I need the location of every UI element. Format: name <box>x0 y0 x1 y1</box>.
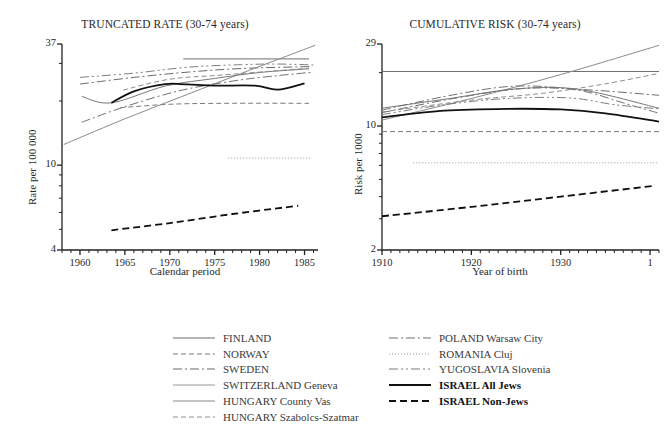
x-tick-label: 1910 <box>362 257 402 268</box>
chart-panel-cumulative-risk: CUMULATIVE RISK (30-74 years) Risk per 1… <box>330 0 660 300</box>
legend-item-label: HUNGARY County Vas <box>223 395 331 407</box>
x-tick-label: 1930 <box>541 257 581 268</box>
x-axis-label: Year of birth <box>370 265 630 277</box>
legend-column-left: FINLANDNORWAYSWEDENSWITZERLAND GenevaHUN… <box>172 330 359 425</box>
series-line <box>111 206 298 231</box>
legend-line-swatch <box>172 411 216 423</box>
legend-item-label: ROMANIA Cluj <box>439 348 513 360</box>
y-axis-label: Risk per 1000 <box>352 133 364 195</box>
legend-item[interactable]: SWITZERLAND Geneva <box>172 377 359 393</box>
panel-title: CUMULATIVE RISK (30-74 years) <box>330 18 660 30</box>
series-line <box>64 45 316 144</box>
legend-line-swatch <box>388 379 432 391</box>
legend-item-label: ISRAEL All Jews <box>439 379 521 391</box>
legend-line-swatch <box>388 348 432 360</box>
legend-item-label: NORWAY <box>223 348 270 360</box>
x-tick-label: 1965 <box>105 257 145 268</box>
y-tick-label: 37 <box>26 37 56 48</box>
x-tick-label: 1980 <box>240 257 280 268</box>
y-tick-label: 10 <box>346 119 376 130</box>
x-tick-label: 1975 <box>195 257 235 268</box>
legend-line-swatch <box>172 348 216 360</box>
legend-item[interactable]: HUNGARY Szabolcs-Szatmar <box>172 409 359 425</box>
legend-item[interactable]: NORWAY <box>172 346 359 362</box>
legend-line-swatch <box>388 363 432 375</box>
plot-area <box>330 0 660 300</box>
series-line <box>382 73 659 112</box>
panel-title: TRUNCATED RATE (30-74 years) <box>0 18 330 30</box>
legend-item-label: ISRAEL Non-Jews <box>439 395 528 407</box>
legend-item-label: POLAND Warsaw City <box>439 332 543 344</box>
x-tick-label: 1 <box>630 257 664 268</box>
x-tick-label: 1970 <box>150 257 190 268</box>
x-tick-label: 1985 <box>285 257 325 268</box>
x-tick-label: 1920 <box>451 257 491 268</box>
legend-item[interactable]: FINLAND <box>172 330 359 346</box>
legend-item-label: FINLAND <box>223 332 271 344</box>
legend-line-swatch <box>172 363 216 375</box>
legend-item-label: SWITZERLAND Geneva <box>223 379 338 391</box>
series-line <box>120 103 309 107</box>
series-line <box>111 83 304 103</box>
legend-item-label: SWEDEN <box>223 363 269 375</box>
legend-column-right: POLAND Warsaw CityROMANIA ClujYUGOSLAVIA… <box>388 330 550 409</box>
y-tick-label: 2 <box>346 243 376 254</box>
legend-item[interactable]: HUNGARY County Vas <box>172 393 359 409</box>
legend-item[interactable]: ROMANIA Cluj <box>388 346 550 362</box>
legend-line-swatch <box>388 395 432 407</box>
y-tick-label: 10 <box>26 158 56 169</box>
legend-item-label: HUNGARY Szabolcs-Szatmar <box>223 411 359 423</box>
chart-legend: FINLANDNORWAYSWEDENSWITZERLAND GenevaHUN… <box>0 330 659 435</box>
legend-line-swatch <box>172 379 216 391</box>
chart-panel-truncated-rate: TRUNCATED RATE (30-74 years) Rate per 10… <box>0 0 330 300</box>
chart-panels: TRUNCATED RATE (30-74 years) Rate per 10… <box>0 0 659 300</box>
legend-item-label: YUGOSLAVIA Slovenia <box>439 363 550 375</box>
y-tick-label: 29 <box>346 37 376 48</box>
legend-item[interactable]: YUGOSLAVIA Slovenia <box>388 362 550 378</box>
x-tick-label: 1960 <box>60 257 100 268</box>
series-line <box>80 67 312 85</box>
legend-line-swatch <box>388 332 432 344</box>
legend-item[interactable]: ISRAEL All Jews <box>388 377 550 393</box>
legend-item[interactable]: ISRAEL Non-Jews <box>388 393 550 409</box>
series-line <box>82 69 309 103</box>
legend-line-swatch <box>172 332 216 344</box>
y-tick-label: 4 <box>26 243 56 254</box>
legend-item[interactable]: POLAND Warsaw City <box>388 330 550 346</box>
legend-item[interactable]: SWEDEN <box>172 362 359 378</box>
series-line <box>382 186 655 216</box>
legend-line-swatch <box>172 395 216 407</box>
